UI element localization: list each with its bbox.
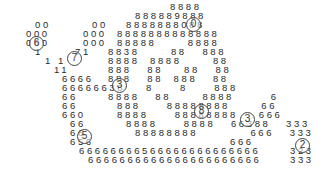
circled-number-label: 0 bbox=[186, 17, 201, 32]
digit-row: 6666666666666666666666 bbox=[88, 155, 261, 164]
circled-number-label: 5 bbox=[77, 129, 92, 144]
digit-art-canvas: 8888888889888888888808800008888888888888… bbox=[0, 0, 336, 174]
circled-number-label: 6 bbox=[29, 36, 44, 51]
digit-row: 88888888 666 333 bbox=[135, 128, 313, 137]
digit-row: 333 bbox=[290, 155, 314, 164]
circled-number-label: 3 bbox=[240, 112, 255, 127]
circled-number-label: 8 bbox=[194, 104, 209, 119]
circled-number-label: 2 bbox=[295, 138, 310, 153]
circled-number-label: 3 bbox=[112, 78, 127, 93]
circled-number-label: 7 bbox=[67, 51, 82, 66]
